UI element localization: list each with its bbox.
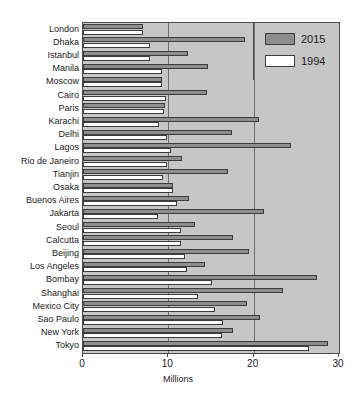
x-axis-title: Millions — [0, 374, 356, 384]
x-tick-label: 20 — [247, 358, 258, 369]
x-tick-mark — [253, 353, 254, 357]
bar-1994 — [83, 82, 162, 87]
category-label: New York — [0, 327, 79, 337]
legend-swatch-2015 — [265, 33, 295, 45]
category-label: Buenos Aires — [0, 195, 79, 205]
bar-2015 — [83, 90, 207, 95]
bar-1994 — [83, 307, 215, 312]
x-tick-mark — [338, 353, 339, 357]
bar-1994 — [83, 280, 212, 285]
population-bar-chart: LondonDhakaIstanbulManilaMoscowCairoPari… — [0, 0, 356, 407]
legend-swatch-1994 — [265, 55, 295, 67]
bar-2015 — [83, 235, 233, 240]
bar-1994 — [83, 96, 166, 101]
bar-1994 — [83, 254, 185, 259]
x-tick-label: 30 — [332, 358, 343, 369]
bar-1994 — [83, 267, 187, 272]
bar-2015 — [83, 24, 143, 29]
x-tick-label: 0 — [79, 358, 85, 369]
bar-2015 — [83, 275, 317, 280]
bar-2015 — [83, 315, 260, 320]
bar-2015 — [83, 51, 188, 56]
x-tick-mark — [82, 353, 83, 357]
clipped-header-text — [8, 0, 348, 10]
x-tick-label: 10 — [162, 358, 173, 369]
bar-2015 — [83, 262, 205, 267]
bar-2015 — [83, 222, 195, 227]
bar-2015 — [83, 209, 264, 214]
bar-1994 — [83, 228, 181, 233]
category-label: Manila — [0, 63, 79, 73]
category-label: Karachi — [0, 116, 79, 126]
bar-2015 — [83, 301, 247, 306]
bar-2015 — [83, 249, 249, 254]
bar-1994 — [83, 214, 158, 219]
bar-1994 — [83, 43, 150, 48]
bar-1994 — [83, 294, 198, 299]
bar-1994 — [83, 333, 222, 338]
category-label: Sao Paulo — [0, 314, 79, 324]
bar-2015 — [83, 37, 245, 42]
category-label: London — [0, 24, 79, 34]
bar-2015 — [83, 288, 283, 293]
bar-2015 — [83, 341, 328, 346]
legend-label-1994: 1994 — [301, 54, 325, 68]
category-label: Cairo — [0, 90, 79, 100]
bar-2015 — [83, 117, 259, 122]
bar-1994 — [83, 122, 159, 127]
legend-label-2015: 2015 — [301, 32, 325, 46]
bar-1994 — [83, 162, 167, 167]
category-label: Istanbul — [0, 50, 79, 60]
bar-1994 — [83, 30, 143, 35]
category-label: Los Angeles — [0, 261, 79, 271]
category-label: Delhi — [0, 129, 79, 139]
category-label: Osaka — [0, 182, 79, 192]
bar-1994 — [83, 69, 162, 74]
bar-2015 — [83, 130, 232, 135]
bar-1994 — [83, 175, 163, 180]
category-label: Calcutta — [0, 235, 79, 245]
category-label: Jakarta — [0, 208, 79, 218]
bar-2015 — [83, 328, 233, 333]
category-label: Moscow — [0, 76, 79, 86]
bar-1994 — [83, 135, 167, 140]
bar-2015 — [83, 103, 165, 108]
category-axis-labels: LondonDhakaIstanbulManilaMoscowCairoPari… — [0, 22, 79, 352]
category-label: Dhaka — [0, 37, 79, 47]
category-label: Tokyo — [0, 340, 79, 350]
bar-2015 — [83, 196, 189, 201]
bar-1994 — [83, 241, 181, 246]
bar-2015 — [83, 77, 162, 82]
bar-1994 — [83, 320, 223, 325]
bar-2015 — [83, 183, 173, 188]
legend: 2015 1994 — [253, 22, 338, 80]
bar-2015 — [83, 64, 208, 69]
bar-1994 — [83, 201, 177, 206]
bar-2015 — [83, 143, 291, 148]
category-label: Rio de Janeiro — [0, 156, 79, 166]
bar-1994 — [83, 188, 173, 193]
category-label: Lagos — [0, 142, 79, 152]
category-label: Mexico City — [0, 301, 79, 311]
bar-1994 — [83, 56, 150, 61]
x-tick-mark — [167, 353, 168, 357]
category-label: Seoul — [0, 222, 79, 232]
category-label: Bombay — [0, 274, 79, 284]
category-label: Shanghai — [0, 288, 79, 298]
bar-2015 — [83, 156, 182, 161]
bar-1994 — [83, 109, 164, 114]
bar-1994 — [83, 148, 171, 153]
category-label: Paris — [0, 103, 79, 113]
bar-1994 — [83, 346, 309, 351]
category-label: Tianjin — [0, 169, 79, 179]
bar-2015 — [83, 169, 228, 174]
category-label: Beijing — [0, 248, 79, 258]
